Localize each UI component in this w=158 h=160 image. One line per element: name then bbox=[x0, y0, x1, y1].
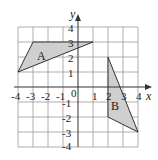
svg-text:-2: -2 bbox=[41, 90, 50, 102]
y-axis-label: y bbox=[69, 7, 76, 21]
x-axis-label: x bbox=[145, 89, 152, 103]
svg-text:3: 3 bbox=[68, 37, 74, 49]
svg-text:1: 1 bbox=[92, 90, 98, 102]
svg-text:3: 3 bbox=[121, 90, 127, 102]
shape-label-a: A bbox=[37, 49, 46, 63]
y-axis-arrow-icon bbox=[75, 14, 81, 21]
svg-text:-3: -3 bbox=[62, 127, 72, 139]
svg-text:-2: -2 bbox=[62, 112, 71, 124]
svg-text:4: 4 bbox=[68, 22, 74, 34]
shape-label-b: B bbox=[111, 99, 119, 113]
x-tick-labels: -4 -3 -2 -1 0 1 2 3 4 bbox=[11, 87, 142, 102]
coordinate-grid: y x 4 3 2 1 -1 -2 -3 -4 -4 -3 -2 -1 0 1 … bbox=[0, 0, 158, 160]
svg-text:-4: -4 bbox=[11, 90, 21, 102]
svg-text:-1: -1 bbox=[56, 90, 65, 102]
svg-text:2: 2 bbox=[68, 52, 74, 64]
svg-text:1: 1 bbox=[68, 67, 74, 79]
svg-text:0: 0 bbox=[71, 87, 77, 99]
svg-text:-4: -4 bbox=[62, 140, 72, 152]
svg-text:4: 4 bbox=[136, 90, 142, 102]
svg-text:-3: -3 bbox=[26, 90, 36, 102]
